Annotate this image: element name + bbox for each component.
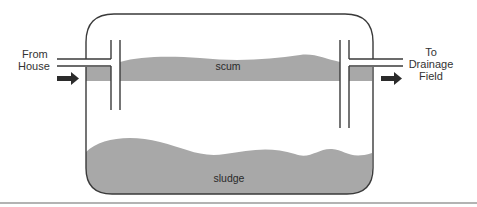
outlet-pipe: [349, 59, 403, 66]
sludge-layer: [86, 138, 372, 194]
inlet-label-line2: House: [18, 60, 50, 72]
outlet-label-line1: To: [425, 46, 437, 58]
inlet-liquid: [86, 67, 111, 81]
outlet-arrow-icon: [381, 72, 402, 85]
outlet-label-line3: Field: [419, 70, 443, 82]
outlet-baffle: [340, 40, 349, 128]
inlet-baffle: [111, 40, 120, 110]
outlet-liquid: [349, 67, 372, 81]
inlet-pipe: [57, 59, 111, 66]
scum-label: scum: [215, 60, 240, 72]
inlet-arrow-icon: [57, 72, 79, 85]
septic-tank-diagram: From House To Drainage Field scum sludge: [0, 0, 477, 207]
sludge-label: sludge: [214, 172, 245, 184]
outlet-label-line2: Drainage: [409, 58, 454, 70]
inlet-label-line1: From: [22, 48, 48, 60]
